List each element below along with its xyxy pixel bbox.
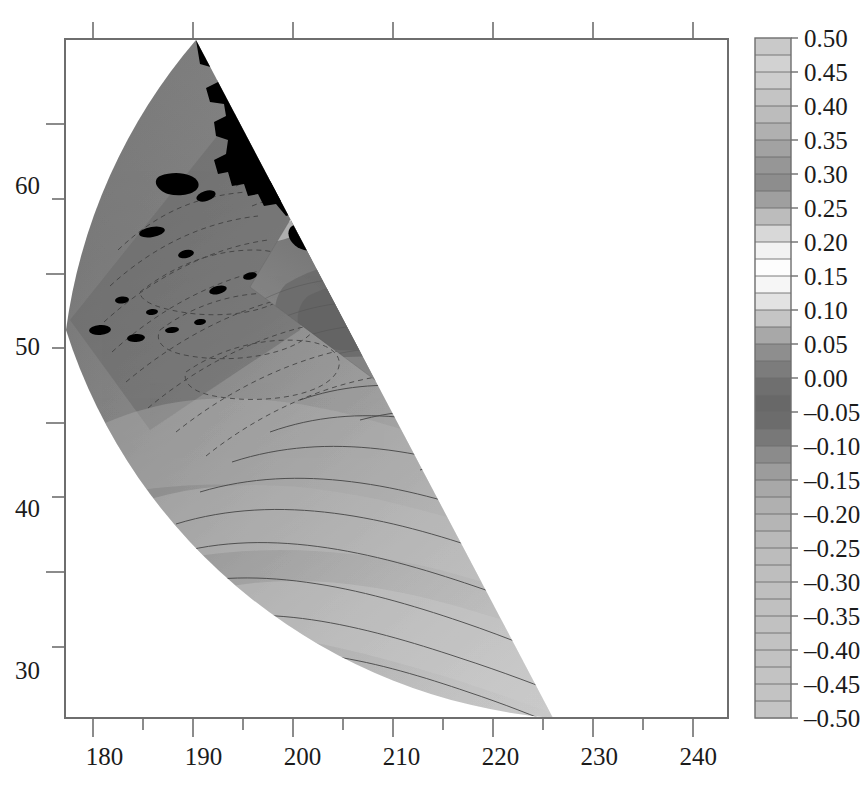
colorbar-tick-label: –0.05 xyxy=(804,400,860,425)
colorbar-tick-label: –0.45 xyxy=(804,672,860,697)
y-tick-label: 50 xyxy=(0,334,40,359)
colorbar-tick-label: 0.35 xyxy=(804,128,848,153)
colorbar-tick-label: –0.20 xyxy=(804,502,860,527)
x-tick-label: 210 xyxy=(383,744,421,769)
map-annotation-ca: CA xyxy=(687,551,726,581)
y-tick-label: 30 xyxy=(0,657,40,682)
colorbar-tick-label: –0.40 xyxy=(804,638,860,663)
colorbar-tick-label: –0.50 xyxy=(804,706,860,731)
colorbar-tick-label: 0.40 xyxy=(804,94,848,119)
x-tick-label: 180 xyxy=(86,744,124,769)
x-tick-label: 240 xyxy=(680,744,718,769)
map-annotation-ak: AK xyxy=(303,117,343,147)
x-tick-label: 200 xyxy=(284,744,322,769)
x-tick-label: 190 xyxy=(185,744,223,769)
colorbar-tick-label: 0.20 xyxy=(804,230,848,255)
colorbar-tick-label: 0.30 xyxy=(804,162,848,187)
colorbar-tick-label: 0.00 xyxy=(804,366,848,391)
x-tick-label: 220 xyxy=(482,744,520,769)
colorbar-tick-label: 0.10 xyxy=(804,298,848,323)
y-tick-label: 40 xyxy=(0,495,40,520)
colorbar-tick-label: 0.05 xyxy=(804,332,848,357)
colorbar-tick-label: 0.25 xyxy=(804,196,848,221)
colorbar-tick-label: 0.15 xyxy=(804,264,848,289)
colorbar-tick-label: –0.35 xyxy=(804,604,860,629)
colorbar-tick-label: 0.50 xyxy=(804,26,848,51)
colorbar-tick-label: –0.15 xyxy=(804,468,860,493)
colorbar-tick-label: –0.25 xyxy=(804,536,860,561)
x-tick-label: 230 xyxy=(581,744,619,769)
colorbar-tick-label: –0.10 xyxy=(804,434,860,459)
y-tick-label: 60 xyxy=(0,172,40,197)
colorbar-tick-label: –0.30 xyxy=(804,570,860,595)
colorbar-tick-label: 0.45 xyxy=(804,60,848,85)
